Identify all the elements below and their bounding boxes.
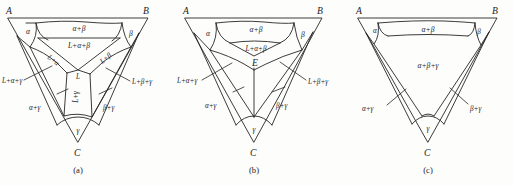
region-label-alpha-beta-gamma-c: α+β+γ (417, 61, 439, 70)
vertex-label-B-a: B (143, 5, 149, 16)
band-alphabeta-line-c (388, 35, 468, 37)
diagram-a-canvas: A B C α α+β β L+α+β L+α L+β L L+γ L+α+γ … (0, 0, 172, 186)
region-label-alpha-beta-b: α+β (250, 25, 263, 34)
divider-alpha-alphabeta-c (378, 23, 388, 36)
ternary-diagram-figure: A B C α α+β β L+α+β L+α L+β L L+γ L+α+γ … (0, 0, 514, 186)
region-label-beta-a: β (128, 29, 133, 38)
vertex-label-B-b: B (317, 5, 323, 16)
region-label-gamma-b: γ (253, 125, 257, 134)
panel-caption-b: (b) (249, 165, 259, 175)
band-alphabeta-bottom-a (36, 21, 122, 23)
diagram-panel-a: A B C α α+β β L+α+β L+α L+β L L+γ L+α+γ … (0, 0, 172, 186)
region-label-gamma-c: γ (427, 124, 431, 133)
leader-alpha-gamma-c (387, 89, 406, 105)
region-label-alpha-beta-c: α+β (422, 25, 435, 34)
vertex-label-C-c: C (424, 147, 431, 158)
region-boundary-alpha-gamma-b (194, 33, 236, 125)
region-boundary-gamma-a (57, 117, 99, 125)
region-label-L-alpha-beta-b: L+α+β (244, 45, 266, 53)
region-label-beta-gamma-b: β+γ (275, 102, 287, 110)
region-label-gamma-a: γ (77, 126, 81, 135)
panel-caption-a: (a) (73, 165, 83, 175)
region-label-L-beta-gamma-b: L+β+γ (307, 78, 328, 86)
region-label-alpha-gamma-a: α+γ (29, 104, 41, 112)
region-label-alpha-gamma-b: α+γ (205, 102, 217, 110)
vertex-label-C-b: C (250, 147, 257, 158)
panel-caption-c: (c) (423, 165, 433, 175)
divider-alpha-alphabeta-a (36, 23, 48, 40)
divider-alpha-alphabeta-b (216, 23, 230, 43)
divider-beta-alphabeta-c (468, 23, 475, 36)
region-boundary-alpha-gamma-c (374, 44, 422, 116)
diagram-b-canvas: A B C α α+β β L+α+β E L+α+γ L+β+γ α+γ β+… (172, 0, 344, 186)
vertex-label-A-c: A (355, 5, 362, 16)
diagram-c-canvas: A B C α α+β β α+β+γ α+γ β+γ γ (c) (344, 0, 514, 186)
leader-L-alpha-gamma-a (24, 66, 52, 80)
vertex-label-B-c: B (492, 5, 498, 16)
region-label-beta-gamma-a: β+γ (102, 104, 114, 112)
region-label-L-alpha-beta-a: L+α+β (67, 41, 90, 50)
vertex-label-A-a: A (5, 5, 12, 16)
region-label-liquid-a: L (75, 73, 80, 81)
band-alphabeta-bottom-b (216, 21, 294, 23)
region-boundary-L-beta-a (90, 47, 131, 74)
region-label-L-gamma-a: L+γ (72, 91, 80, 104)
region-label-beta-b: β (300, 30, 305, 39)
region-label-alpha-b: α (206, 29, 211, 38)
leader-beta-gamma-c (450, 88, 468, 104)
region-label-alpha-gamma-c: α+γ (362, 105, 374, 113)
region-label-alpha-beta-a: α+β (73, 24, 86, 33)
region-boundary-beta-gamma-outer-c (444, 32, 489, 124)
divider-beta-alphabeta-b (280, 23, 294, 43)
region-label-beta-gamma-c: β+γ (469, 105, 481, 113)
band-alphabeta-line-b (230, 41, 280, 43)
band-alphabeta-bottom-c (378, 21, 475, 23)
vertex-label-A-b: A (182, 5, 189, 16)
region-label-L-alpha-gamma-b: L+α+γ (176, 77, 197, 85)
region-label-beta-c: β (476, 28, 481, 36)
tick-alpha-gamma-a (57, 89, 68, 94)
point-label-E-b: E (251, 57, 258, 68)
diagram-panel-c: A B C α α+β β α+β+γ α+γ β+γ γ (c) (344, 0, 514, 186)
diagram-panel-b: A B C α α+β β L+α+β E L+α+γ L+β+γ α+γ β+… (172, 0, 344, 186)
vertex-label-C-a: C (74, 147, 81, 158)
region-label-L-alpha-gamma-a: L+α+γ (1, 77, 22, 85)
region-label-alpha-c: α (373, 27, 377, 35)
region-boundary-beta-gamma-b (272, 32, 313, 125)
region-label-L-alpha-a: L+α (45, 53, 61, 68)
region-label-L-beta-gamma-a: L+β+γ (131, 78, 152, 86)
region-label-alpha-a: α (26, 27, 31, 36)
